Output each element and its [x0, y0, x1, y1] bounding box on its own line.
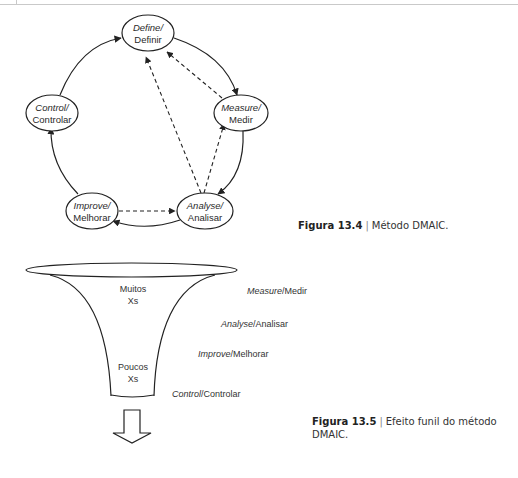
caption-text: Método DMAIC. [372, 220, 449, 231]
node-analyse-en: Analyse/ [186, 200, 225, 211]
caption-separator: | [365, 220, 368, 231]
node-define-en: Define/ [133, 22, 164, 33]
node-analyse-pt: Analisar [188, 212, 222, 223]
funnel-top-text-line2: Xs [128, 296, 139, 306]
node-analyse: Analyse/ Analisar [177, 193, 233, 229]
node-control-pt: Controlar [32, 114, 71, 125]
dmaic-cycle-diagram: Define/ Definir Measure/ Medir Analyse/ … [26, 15, 268, 229]
caption-label: Figura 13.5 [312, 416, 376, 427]
figure-13-5-caption: Figura 13.5|Efeito funil do método DMAIC… [312, 415, 497, 441]
stage-measure: Measure/Medir [247, 286, 307, 296]
node-measure-pt: Medir [229, 114, 253, 125]
node-improve-pt: Melhorar [73, 212, 111, 223]
arrow-define-to-measure [174, 38, 237, 95]
funnel-bottom-text-line2: Xs [128, 374, 139, 384]
dashed-arrow-analyse-to-measure [204, 124, 224, 193]
funnel-right-wall [154, 275, 215, 396]
node-measure-en: Measure/ [221, 102, 262, 113]
funnel-left-wall [50, 275, 111, 396]
down-arrow-icon [113, 410, 151, 443]
arrow-measure-to-analyse [218, 131, 243, 194]
dashed-arrow-analyse-to-define [146, 57, 201, 193]
funnel-bottom-text-line1: Poucos [118, 362, 149, 372]
figure-13-4-caption: Figura 13.4|Método DMAIC. [298, 219, 449, 232]
node-control-en: Control/ [35, 102, 70, 113]
arrow-improve-to-control [51, 128, 78, 194]
node-define: Define/ Definir [122, 15, 174, 51]
node-improve-en: Improve/ [74, 200, 112, 211]
arrow-control-to-define [60, 38, 121, 95]
arrow-analyse-to-improve [113, 220, 180, 226]
dmaic-funnel-diagram: Muitos Xs Poucos Xs Measure/Medir Analys… [26, 263, 307, 443]
caption-text-line2: DMAIC. [312, 428, 497, 441]
funnel-top-rim [26, 263, 237, 277]
funnel-bottom-edge [111, 395, 154, 397]
node-improve: Improve/ Melhorar [66, 193, 118, 229]
node-control: Control/ Controlar [26, 95, 78, 131]
node-define-pt: Definir [134, 34, 161, 45]
caption-separator: | [379, 416, 382, 427]
stage-improve: Improve/Melhorar [198, 349, 269, 359]
dmaic-diagrams: Define/ Definir Measure/ Medir Analyse/ … [0, 0, 518, 478]
caption-text-line1: Efeito funil do método [386, 416, 497, 427]
caption-label: Figura 13.4 [298, 220, 362, 231]
node-measure: Measure/ Medir [214, 95, 268, 131]
stage-analyse: Analyse/Analisar [220, 319, 288, 329]
funnel-top-text-line1: Muitos [120, 284, 147, 294]
stage-control: Control/Controlar [172, 389, 241, 399]
